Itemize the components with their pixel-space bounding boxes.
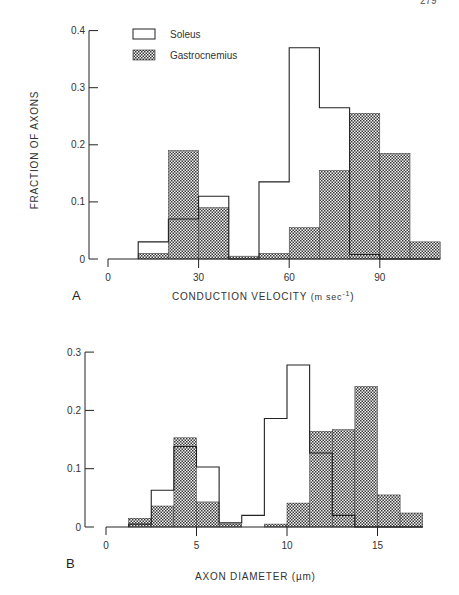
bar-gastrocnemius xyxy=(400,513,423,527)
bar-gastrocnemius xyxy=(380,153,410,259)
y-tick-label: 0 xyxy=(75,522,81,533)
y-tick-label: 0.1 xyxy=(71,196,85,207)
bar-gastrocnemius xyxy=(410,242,440,259)
bar-gastrocnemius xyxy=(310,431,333,527)
histogram-b-bars xyxy=(129,365,423,527)
x-tick-label: 60 xyxy=(284,272,296,283)
x-tick-label: 10 xyxy=(281,540,293,551)
bar-gastrocnemius xyxy=(174,438,197,527)
bar-gastrocnemius xyxy=(378,495,401,527)
legend-swatch-gastrocnemius xyxy=(133,50,155,60)
bar-gastrocnemius xyxy=(129,518,152,527)
bar-gastrocnemius xyxy=(289,228,319,259)
legend-label-soleus: Soleus xyxy=(170,29,201,40)
panel-label-a: A xyxy=(72,288,81,303)
bar-gastrocnemius xyxy=(332,430,355,527)
chart-a: 030609000.10.20.30.4 FRACTION OF AXONS C… xyxy=(29,25,440,303)
bar-gastrocnemius xyxy=(355,386,378,527)
x-tick-label: 15 xyxy=(372,540,384,551)
x-tick-label: 30 xyxy=(193,272,205,283)
bar-gastrocnemius xyxy=(197,502,220,527)
bar-gastrocnemius xyxy=(151,506,174,527)
bar-gastrocnemius xyxy=(168,151,198,259)
bar-gastrocnemius xyxy=(138,253,168,259)
x-tick-label: 0 xyxy=(105,272,111,283)
y-tick-label: 0.3 xyxy=(71,82,85,93)
x-axis-title-a: CONDUCTION VELOCITY (m sec-1) xyxy=(172,290,354,302)
x-axis-title-b: AXON DIAMETER (µm) xyxy=(195,571,316,582)
bar-gastrocnemius xyxy=(259,253,289,259)
histogram-a-bars xyxy=(138,48,440,259)
legend: Soleus Gastrocnemius xyxy=(133,29,237,61)
bar-gastrocnemius xyxy=(350,113,380,259)
legend-swatch-soleus xyxy=(133,29,155,39)
panel-label-b: B xyxy=(66,556,75,571)
page-number: 279 xyxy=(420,0,437,6)
legend-label-gastrocnemius: Gastrocnemius xyxy=(170,50,237,61)
bar-gastrocnemius xyxy=(319,170,349,259)
chart-b: 05101500.10.20.3 AXON DIAMETER (µm) B xyxy=(66,347,423,582)
x-tick-label: 90 xyxy=(374,272,386,283)
y-tick-label: 0.1 xyxy=(67,463,81,474)
x-tick-label: 5 xyxy=(194,540,200,551)
bar-gastrocnemius xyxy=(199,208,229,259)
y-tick-label: 0.4 xyxy=(71,25,85,36)
y-tick-label: 0.2 xyxy=(67,405,81,416)
figure: 279 030609000.10.20.30.4 FRACTION OF AXO… xyxy=(0,0,459,595)
y-tick-label: 0.2 xyxy=(71,139,85,150)
y-tick-label: 0 xyxy=(79,254,85,265)
y-axis-title: FRACTION OF AXONS xyxy=(29,91,40,210)
x-tick-label: 0 xyxy=(103,540,109,551)
y-tick-label: 0.3 xyxy=(67,347,81,358)
bar-gastrocnemius xyxy=(287,503,310,527)
